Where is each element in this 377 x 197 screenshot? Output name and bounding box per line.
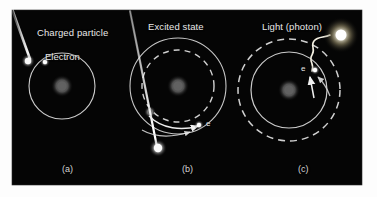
electron-b	[197, 123, 201, 127]
physics-diagram-canvas	[0, 0, 377, 197]
figure-root: Charged particle Electron (a) Excited st…	[0, 0, 377, 197]
figure-plate	[12, 10, 362, 185]
charged-particle-head-b	[154, 144, 162, 152]
electron-c	[313, 68, 317, 72]
electron-a	[43, 60, 47, 64]
charged-particle-head-a	[25, 58, 31, 64]
photon-source-c	[336, 30, 347, 41]
